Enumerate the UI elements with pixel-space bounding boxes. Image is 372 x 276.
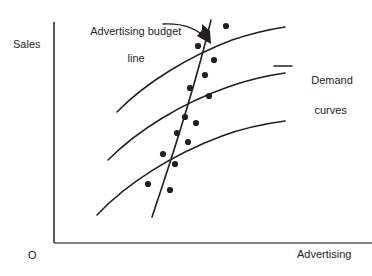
- y-axis-label: Sales: [13, 38, 41, 52]
- scatter-point: [202, 72, 208, 78]
- scatter-point: [182, 114, 188, 120]
- budget-line-annotation-line1: Advertising budget: [90, 25, 181, 37]
- scatter-point: [193, 120, 199, 126]
- scatter-point: [174, 130, 180, 136]
- scatter-point: [172, 161, 178, 167]
- scatter-point: [167, 187, 173, 193]
- scatter-point: [223, 23, 229, 29]
- scatter-point: [160, 151, 166, 157]
- figure-canvas: - - - - -: [0, 0, 372, 276]
- origin-label: O: [28, 249, 37, 263]
- scatter-point: [145, 181, 151, 187]
- demand-curves-annotation: Demand curves: [299, 58, 353, 147]
- x-axis-label: Advertising: [297, 248, 351, 262]
- demand-curves-annotation-line2: curves: [299, 103, 353, 118]
- scatter-point: [211, 57, 217, 63]
- demand-curve-3: [97, 121, 285, 215]
- budget-line-annotation-line2: line: [128, 52, 145, 64]
- scatter-point: [195, 43, 201, 49]
- scatter-point: [185, 139, 191, 145]
- scatter-point: [206, 93, 212, 99]
- budget-line-annotation: Advertising budget line: [74, 11, 186, 80]
- scatter-point: [187, 85, 193, 91]
- demand-curves-annotation-line1: Demand: [311, 74, 353, 86]
